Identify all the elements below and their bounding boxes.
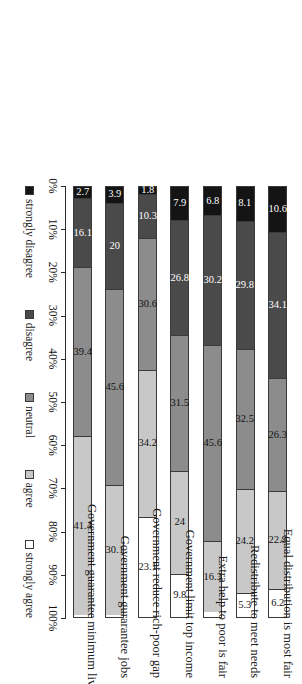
segment-value-label: 10.6	[269, 204, 287, 215]
segment-value-label: 31.5	[171, 398, 189, 409]
category-label: Government reduce rich-poor gap	[149, 504, 164, 684]
x-tick-label: 0%	[47, 178, 59, 193]
stacked-bar-figure: 10.634.126.322.96.28.129.832.524.25.36.8…	[0, 0, 302, 684]
bar-segment-disagree: 20	[106, 204, 123, 290]
bar-segment-neutral: 32.5	[237, 350, 254, 490]
segment-value-label: 32.5	[236, 414, 254, 425]
x-tick-label: 70%	[47, 478, 59, 499]
bar-segment-disagree: 34.1	[269, 233, 286, 379]
bar-segment-strongly-disagree: 10.6	[269, 187, 286, 233]
bar-segment-disagree: 10.3	[139, 195, 156, 239]
bar-segment-strongly-disagree: 3.9	[106, 187, 123, 204]
x-tick	[61, 272, 66, 273]
bar-segment-neutral: 30.6	[139, 239, 156, 371]
legend-swatch-icon	[26, 310, 35, 319]
segment-value-label: 39.4	[73, 347, 91, 358]
chart-canvas: 10.634.126.322.96.28.129.832.524.25.36.8…	[0, 0, 302, 684]
bar-segment-disagree: 16.1	[74, 199, 91, 268]
x-tick	[61, 445, 66, 446]
x-tick	[61, 186, 66, 187]
bar-segment-neutral: 45.6	[106, 290, 123, 486]
segment-value-label: 10.3	[138, 211, 156, 222]
segment-value-label: 30.6	[138, 299, 156, 310]
legend-label: agree	[24, 483, 36, 508]
segment-value-label: 20	[110, 241, 121, 252]
legend-item: neutral	[24, 393, 36, 438]
segment-value-label: 29.8	[236, 280, 254, 291]
legend-swatch-icon	[26, 470, 35, 479]
x-tick-label: 60%	[47, 435, 59, 456]
bar-segment-strongly-disagree: 6.8	[204, 187, 221, 216]
category-label: Government limit top income	[182, 504, 197, 684]
bar-segment-agree: 34.2	[139, 371, 156, 518]
legend-swatch-icon	[26, 540, 35, 549]
legend-item: strongly agree	[24, 540, 36, 618]
bar-segment-strongly-disagree: 1.8	[139, 187, 156, 195]
segment-value-label: 2.7	[76, 187, 89, 198]
segment-value-label: 34.1	[269, 300, 287, 311]
x-tick	[61, 359, 66, 360]
legend-label: disagree	[24, 323, 36, 361]
x-tick	[61, 316, 66, 317]
segment-value-label: 3.9	[108, 190, 121, 201]
x-tick	[61, 618, 66, 619]
segment-value-label: 26.3	[269, 430, 287, 441]
x-tick-label: 100%	[47, 605, 59, 632]
segment-value-label: 26.8	[171, 273, 189, 284]
legend-item: strongly disagree	[24, 186, 36, 278]
x-tick-label: 50%	[47, 391, 59, 412]
bar-segment-neutral: 26.3	[269, 379, 286, 492]
category-label: Redistribute to meet needs	[247, 504, 262, 684]
x-tick	[61, 532, 66, 533]
bar-segment-disagree: 30.2	[204, 216, 221, 346]
x-tick	[61, 229, 66, 230]
x-tick-label: 30%	[47, 305, 59, 326]
bar-segment-neutral: 39.4	[74, 268, 91, 437]
legend-item: disagree	[24, 310, 36, 361]
legend-label: strongly agree	[24, 553, 36, 618]
legend-swatch-icon	[26, 393, 35, 402]
bar-segment-disagree: 26.8	[172, 221, 189, 336]
bar-segment-disagree: 29.8	[237, 222, 254, 350]
x-tick-label: 80%	[47, 521, 59, 542]
segment-value-label: 45.6	[203, 438, 221, 449]
category-label: Extra help to poor is fair	[215, 504, 230, 684]
segment-value-label: 34.2	[138, 438, 156, 449]
legend-label: strongly disagree	[24, 199, 36, 278]
x-tick	[61, 488, 66, 489]
x-tick-label: 10%	[47, 219, 59, 240]
segment-value-label: 7.9	[173, 198, 186, 209]
segment-value-label: 6.8	[206, 196, 219, 207]
legend-swatch-icon	[26, 186, 35, 195]
segment-value-label: 30.2	[203, 275, 221, 286]
segment-value-label: 8.1	[239, 199, 252, 210]
category-label: Government gurarantee jobs	[117, 504, 132, 684]
bar-segment-strongly-disagree: 2.7	[74, 187, 91, 199]
bar-segment-neutral: 31.5	[172, 336, 189, 471]
x-tick	[61, 402, 66, 403]
legend-label: neutral	[24, 406, 36, 438]
bar-segment-strongly-disagree: 8.1	[237, 187, 254, 222]
x-tick-label: 20%	[47, 262, 59, 283]
legend-item: agree	[24, 470, 36, 508]
category-label: Equal distribution is most fair	[280, 504, 295, 684]
x-tick-label: 90%	[47, 564, 59, 585]
category-label: Government guarantee minimum living stan…	[84, 504, 99, 684]
segment-value-label: 16.1	[73, 227, 91, 238]
segment-value-label: 45.6	[106, 382, 124, 393]
x-tick-label: 40%	[47, 348, 59, 369]
x-tick	[61, 575, 66, 576]
bar-segment-strongly-disagree: 7.9	[172, 187, 189, 221]
chart-legend: strongly disagreedisagreeneutralagreestr…	[24, 186, 36, 618]
